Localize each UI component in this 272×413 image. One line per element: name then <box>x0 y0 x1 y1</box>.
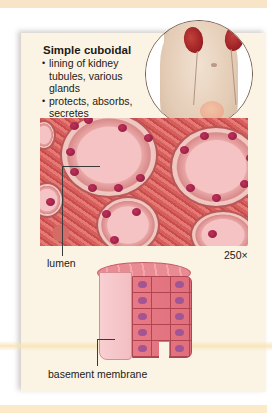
right-ureter <box>231 49 237 105</box>
cuboidal-epithelium-illustration <box>93 262 195 362</box>
description-list: lining of kidney tubules, various glands… <box>41 57 141 120</box>
top-page-band <box>0 0 267 8</box>
tubule <box>170 126 248 208</box>
tubule <box>96 196 160 246</box>
figure-title: Simple cuboidal <box>43 44 131 57</box>
micrograph-image <box>40 118 248 246</box>
basement-membrane-label: basement membrane <box>48 368 147 380</box>
left-kidney-icon <box>182 25 206 54</box>
magnification-label: 250× <box>224 249 248 261</box>
basement-membrane-leader-line-horizontal <box>97 339 115 340</box>
left-ureter <box>193 51 198 105</box>
navel <box>211 63 217 67</box>
bullet-location: lining of kidney tubules, various glands <box>41 57 141 95</box>
lumen-leader-line-horizontal <box>62 166 100 167</box>
kidney-location-inset <box>145 20 253 128</box>
bottom-page-band <box>0 405 267 413</box>
cuboid-basement-face <box>99 272 132 360</box>
tubule <box>190 210 248 246</box>
tubule <box>60 118 158 198</box>
basement-membrane-leader-line <box>97 339 98 366</box>
lumen-label: lumen <box>47 257 76 269</box>
bullet-function: protects, absorbs, secretes <box>41 95 141 120</box>
tubule <box>40 120 56 150</box>
torso-illustration <box>160 20 238 128</box>
lumen-leader-line <box>62 166 63 256</box>
